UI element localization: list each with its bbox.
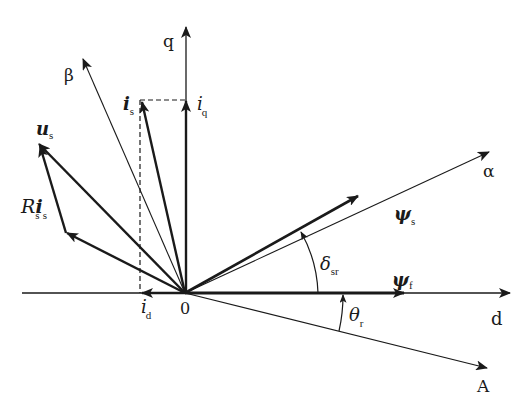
- is-label: is: [123, 93, 134, 117]
- d-axis-label: d: [491, 308, 503, 329]
- back-emf-vector: [67, 233, 185, 293]
- psi-f-label: ψf: [392, 269, 413, 291]
- phasor-diagram: q β α d A 0 is iq id us Rsis ψs ψf δsr θ…: [0, 0, 519, 408]
- is-vector: [142, 102, 185, 293]
- q-axis-label: q: [163, 31, 174, 51]
- iq-label: iq: [197, 93, 208, 118]
- rs-is-label: Rsis: [20, 195, 47, 221]
- delta-sr-arc: [301, 232, 318, 293]
- delta-sr-label: δsr: [320, 253, 339, 277]
- beta-axis-label: β: [64, 65, 74, 85]
- a-axis-label: A: [476, 376, 490, 396]
- a-axis: [185, 293, 487, 368]
- psi-s-label: ψs: [394, 203, 415, 227]
- theta-r-label: θr: [349, 304, 364, 329]
- origin-label: 0: [180, 299, 190, 318]
- beta-axis: [83, 59, 185, 293]
- us-label: us: [36, 118, 53, 141]
- psi-s-vector: [185, 196, 358, 293]
- id-label: id: [141, 296, 152, 321]
- alpha-axis-label: α: [483, 161, 495, 181]
- theta-r-arc: [339, 295, 343, 331]
